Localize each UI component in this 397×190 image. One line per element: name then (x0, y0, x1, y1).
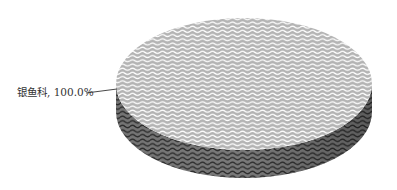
data-label: 银鱼科, 100.0% (17, 86, 94, 98)
pie-slice-top (116, 18, 372, 150)
